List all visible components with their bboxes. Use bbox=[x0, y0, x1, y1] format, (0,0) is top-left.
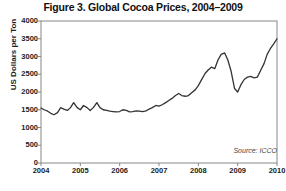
x-axis-tick-label: 2009 bbox=[221, 167, 255, 175]
plot-area bbox=[0, 0, 286, 191]
data-series-line bbox=[41, 39, 277, 115]
figure-container: Figure 3. Global Cocoa Prices, 2004–2009… bbox=[0, 0, 286, 191]
x-axis-tick-label: 2004 bbox=[24, 167, 58, 175]
source-note: Source: ICCO bbox=[233, 147, 277, 154]
x-axis-tick-label: 2008 bbox=[181, 167, 215, 175]
x-axis-tick-label: 2005 bbox=[63, 167, 97, 175]
x-axis-tick-label: 2006 bbox=[103, 167, 137, 175]
x-axis-tick-label: 2007 bbox=[142, 167, 176, 175]
x-axis-tick-labels: 2004200520062007200820092010 bbox=[0, 167, 286, 181]
plot-frame bbox=[41, 21, 277, 163]
x-axis-tick-label: 2010 bbox=[260, 167, 286, 175]
line-chart-svg bbox=[0, 0, 286, 191]
